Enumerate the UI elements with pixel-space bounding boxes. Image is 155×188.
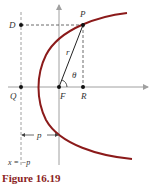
theta-arc bbox=[62, 80, 67, 87]
label-D: D bbox=[8, 20, 16, 30]
label-theta: θ bbox=[72, 70, 77, 80]
point-P bbox=[81, 23, 85, 27]
label-F: F bbox=[59, 91, 66, 101]
point-Q bbox=[19, 85, 23, 89]
point-F bbox=[57, 85, 61, 89]
figure-caption: Figure 16.19 bbox=[2, 172, 60, 184]
label-R: R bbox=[80, 91, 87, 101]
point-R bbox=[81, 85, 85, 89]
parabola-curve bbox=[39, 13, 133, 159]
point-D bbox=[19, 23, 23, 27]
label-directrix: x = −p bbox=[7, 158, 30, 167]
label-P: P bbox=[79, 9, 86, 19]
label-p: p bbox=[36, 130, 42, 140]
radius-segment bbox=[59, 25, 83, 87]
label-Q: Q bbox=[10, 91, 17, 101]
label-r: r bbox=[66, 47, 70, 57]
parabola-diagram: D P Q F R r θ p x = −p bbox=[0, 0, 155, 188]
